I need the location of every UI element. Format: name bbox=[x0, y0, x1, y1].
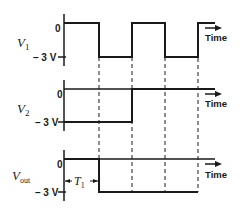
time-arrow-icon bbox=[215, 161, 222, 167]
vout-time-label: Time bbox=[205, 169, 227, 180]
t1-left-arrow-icon bbox=[65, 179, 70, 183]
timing-diagram: V1 0 – 3 V Time V2 0 – 3 V Time Vout 0 –… bbox=[0, 0, 240, 211]
v1-axis bbox=[58, 14, 66, 66]
time-arrow-icon bbox=[215, 91, 222, 97]
vout-label: Vout bbox=[12, 168, 31, 185]
v1-waveform bbox=[64, 23, 215, 57]
time-arrows bbox=[205, 28, 216, 164]
v1-label: V1 bbox=[17, 35, 29, 52]
v2-waveform bbox=[64, 89, 215, 122]
v1-low-label: – 3 V bbox=[33, 52, 57, 63]
t1-label: T1 bbox=[74, 174, 85, 190]
vout-zero-label: 0 bbox=[57, 159, 63, 170]
timing-guides bbox=[99, 23, 198, 192]
v2-axis bbox=[58, 80, 66, 131]
t1-right-arrow-icon bbox=[93, 179, 98, 183]
v2-zero-label: 0 bbox=[57, 89, 63, 100]
time-arrow-icon bbox=[215, 25, 222, 31]
vout-axis bbox=[58, 150, 66, 201]
v2-label: V2 bbox=[17, 101, 29, 118]
v2-low-label: – 3 V bbox=[35, 117, 59, 128]
vout-low-label: – 3 V bbox=[35, 187, 59, 198]
v2-time-label: Time bbox=[205, 98, 227, 109]
v1-zero-label: 0 bbox=[55, 23, 61, 34]
v1-time-label: Time bbox=[205, 32, 227, 43]
